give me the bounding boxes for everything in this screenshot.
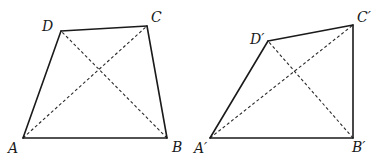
quadrilateral-abcd-prime: A′B′C′D′ — [192, 9, 372, 156]
vertex-label-c: C′ — [357, 9, 372, 25]
quadrilateral-abcd: ABCD — [6, 9, 182, 156]
side-cd — [61, 26, 147, 31]
side-da — [210, 41, 268, 138]
vertex-label-b: B — [171, 139, 182, 155]
vertex-label-a: A′ — [192, 140, 208, 156]
diagonal-ac — [210, 25, 353, 138]
side-da — [23, 31, 61, 138]
side-cd — [268, 25, 353, 41]
vertex-label-d: D′ — [249, 31, 265, 47]
diagonal-bd — [268, 41, 353, 138]
vertex-label-c: C — [151, 9, 162, 25]
diagonal-ac — [23, 26, 147, 138]
vertex-label-a: A — [6, 140, 18, 156]
diagram-canvas: ABCD A′B′C′D′ — [0, 0, 385, 162]
vertex-label-d: D — [41, 18, 53, 34]
vertex-label-b: B′ — [351, 139, 366, 155]
